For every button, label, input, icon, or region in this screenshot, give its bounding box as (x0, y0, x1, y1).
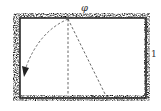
label-phi: φ (81, 2, 88, 13)
label-one: 1 (151, 49, 157, 59)
stippled-border (13, 13, 150, 101)
rectangle-outline (20, 18, 146, 98)
dashed-diagonal-line (68, 19, 107, 98)
dashed-arc (25, 19, 68, 70)
arrowhead-icon (22, 66, 29, 77)
diagram-canvas (0, 0, 161, 111)
